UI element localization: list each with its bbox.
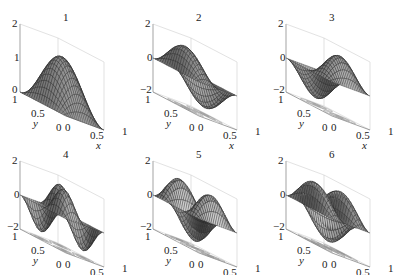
surface-plot-5: 520−210.50y00.51x (133, 137, 266, 274)
y-tick-0: 0 (189, 259, 195, 270)
x-tick-1: 1 (388, 263, 394, 274)
z-tick-mid: 0 (14, 189, 20, 200)
plot-title: 5 (196, 149, 202, 160)
x-tick-1: 1 (255, 263, 261, 274)
y-axis-label: y (166, 118, 171, 129)
x-tick-0.5: 0.5 (356, 267, 370, 275)
y-axis-label: y (33, 118, 38, 129)
x-tick-0: 0 (65, 259, 71, 270)
y-tick-1: 1 (278, 94, 284, 105)
plot-title: 2 (196, 12, 202, 23)
surface-mesh (286, 55, 370, 98)
y-axis-label: y (299, 118, 304, 129)
x-tick-1: 1 (388, 126, 394, 137)
z-tick-top: 2 (12, 18, 18, 29)
y-axis-label: y (33, 255, 38, 266)
y-tick-0: 0 (322, 259, 328, 270)
y-tick-1: 1 (12, 94, 18, 105)
z-tick-mid: 0 (280, 52, 286, 63)
surface-mesh (153, 178, 237, 241)
y-tick-0: 0 (322, 122, 328, 133)
x-tick-1: 1 (122, 263, 128, 274)
z-tick-top: 2 (278, 155, 284, 166)
surface-plot-4: 420−210.50y00.51x (0, 137, 133, 274)
z-tick-top: 2 (278, 18, 284, 29)
z-tick-mid: 0 (147, 52, 153, 63)
surface-mesh (20, 184, 104, 250)
y-tick-1: 1 (278, 231, 284, 242)
plot-title: 6 (329, 149, 335, 160)
surface-plot-2: 220−210.50y00.51x (133, 0, 266, 137)
y-tick-0: 0 (56, 259, 62, 270)
y-tick-1: 1 (145, 94, 151, 105)
x-tick-0: 0 (331, 259, 337, 270)
z-tick-mid: 0 (280, 189, 286, 200)
surface-plot-6: 620−210.50y00.51x (266, 137, 399, 274)
y-tick-0: 0 (56, 122, 62, 133)
y-tick-1: 1 (145, 231, 151, 242)
y-tick-0: 0 (189, 122, 195, 133)
x-tick-1: 1 (122, 126, 128, 137)
plot-title: 1 (63, 12, 69, 23)
x-tick-0: 0 (65, 122, 71, 133)
surface-mesh (286, 181, 370, 242)
x-tick-0: 0 (198, 122, 204, 133)
surface-plot-1: 121010.50y00.51x (0, 0, 133, 137)
x-tick-1: 1 (255, 126, 261, 137)
x-tick-0: 0 (331, 122, 337, 133)
plot-title: 4 (63, 149, 69, 160)
z-tick-mid: 1 (14, 52, 20, 63)
z-tick-top: 2 (12, 155, 18, 166)
y-tick-1: 1 (12, 231, 18, 242)
z-tick-top: 2 (145, 155, 151, 166)
z-tick-top: 2 (145, 18, 151, 29)
y-axis-label: y (166, 255, 171, 266)
x-tick-0: 0 (198, 259, 204, 270)
x-tick-0.5: 0.5 (223, 267, 237, 275)
surface-plot-3: 320−210.50y00.51x (266, 0, 399, 137)
z-tick-mid: 0 (147, 189, 153, 200)
x-tick-0.5: 0.5 (90, 267, 104, 275)
plot-title: 3 (329, 12, 335, 23)
surface-mesh (153, 45, 237, 109)
y-axis-label: y (299, 255, 304, 266)
